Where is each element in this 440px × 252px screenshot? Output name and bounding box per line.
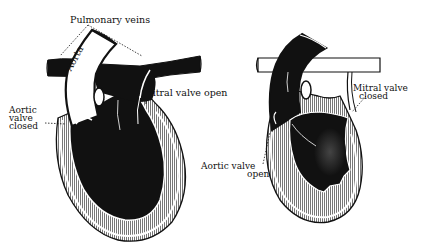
label-pulmonary-veins: Pulmonary veins [70,15,150,24]
label-mitral-valve-closed-2: closed [359,92,388,101]
right-heart [257,34,381,223]
pulmonary-artery-section [94,88,104,106]
right-pulmonary-artery-section [301,81,311,99]
label-aortic-valve-closed-3: closed [9,122,38,131]
heart-diagram [0,0,440,252]
label-aortic-valve-open-2: open [247,170,269,179]
label-mitral-valve-open: Mitral valve open [143,88,227,97]
contracted-blood [314,128,346,176]
